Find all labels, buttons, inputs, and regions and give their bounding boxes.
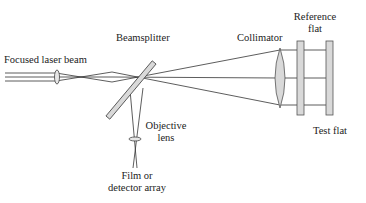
diverging-beam xyxy=(112,50,280,105)
collimated-beam xyxy=(280,50,330,105)
label-film-detector: Film or detector array xyxy=(100,170,174,194)
label-reference-flat: Reference flat xyxy=(290,11,340,35)
label-objective-line2: lens xyxy=(141,132,191,144)
test-flat xyxy=(326,41,333,115)
label-focused-laser-beam: Focused laser beam xyxy=(4,54,87,66)
label-film-line2: detector array xyxy=(100,182,174,194)
objective-lens xyxy=(129,137,141,141)
label-reference-flat-line2: flat xyxy=(290,23,340,35)
label-objective-lens: Objective lens xyxy=(141,120,191,144)
label-reference-flat-line1: Reference xyxy=(290,11,340,23)
beamsplitter-plate xyxy=(106,61,156,119)
label-test-flat: Test flat xyxy=(313,125,347,137)
focusing-lens xyxy=(55,70,60,84)
label-collimator: Collimator xyxy=(237,32,283,44)
label-objective-line1: Objective xyxy=(141,120,191,132)
label-film-line1: Film or xyxy=(100,170,174,182)
label-beamsplitter: Beamsplitter xyxy=(116,32,170,44)
collimator-lens xyxy=(275,48,285,108)
reference-flat xyxy=(297,41,304,115)
